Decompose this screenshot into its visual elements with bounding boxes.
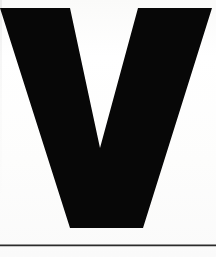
glyph-layer: V — [0, 0, 216, 257]
letter-v-glyph — [0, 8, 212, 228]
letter-v-svg: V — [0, 0, 216, 257]
scanned-page: V — [0, 0, 216, 257]
